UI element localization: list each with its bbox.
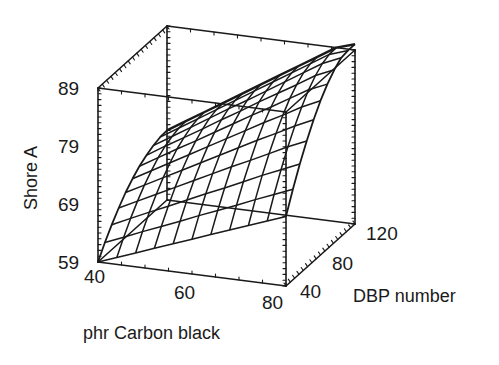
z-axis-title: Shore A [21,146,41,210]
z-tick-89: 89 [58,78,79,99]
y-tick-40: 40 [300,281,321,302]
y-tick-120: 120 [366,223,398,244]
z-tick-79: 79 [58,136,79,157]
axis-tick-marks [98,26,355,286]
x-tick-40: 40 [84,266,105,287]
y-tick-80: 80 [332,253,353,274]
z-tick-69: 69 [58,194,79,215]
plot-box-back-edges [98,26,355,286]
x-tick-80: 80 [262,292,283,313]
x-axis-title: phr Carbon black [83,323,221,343]
x-tick-60: 60 [174,282,195,303]
z-tick-59: 59 [58,252,79,273]
y-axis-title: DBP number [353,286,456,306]
surface-plot: 89 79 69 59 Shore A 40 60 80 phr Carbon … [0,0,499,365]
plot-box-front-edges [98,26,355,286]
surface-mesh [98,44,355,262]
